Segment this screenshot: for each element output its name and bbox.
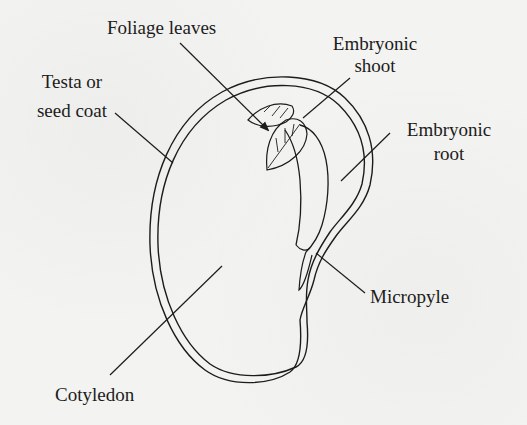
label-embryonic-root: Embryonic root: [394, 119, 504, 165]
label-embryonic-root-line2: root: [394, 143, 504, 165]
leader-micropyle: [316, 253, 365, 293]
label-testa-line1: Testa or: [27, 71, 117, 93]
label-cotyledon: Cotyledon: [55, 384, 134, 406]
leader-cotyledon: [110, 266, 222, 375]
label-testa-line2: seed coat: [27, 100, 117, 122]
seed-diagram: Foliage leaves Testa or seed coat Embryo…: [0, 0, 527, 425]
leader-foliage-leaves: [180, 43, 268, 130]
label-embryonic-shoot: Embryonic shoot: [320, 33, 430, 77]
label-testa: Testa or seed coat: [27, 71, 117, 122]
label-micropyle: Micropyle: [370, 286, 449, 308]
embryonic-axis-left: [285, 130, 301, 245]
radicle-tip: [296, 245, 312, 290]
leader-embryonic-root: [341, 133, 390, 181]
seed-coat-inner: [158, 86, 364, 376]
leader-testa: [115, 113, 173, 163]
seed-drawing: [0, 0, 527, 425]
label-foliage-leaves: Foliage leaves: [107, 17, 216, 39]
label-embryonic-root-line1: Embryonic: [394, 119, 504, 141]
leaf-veins: [264, 106, 300, 168]
label-embryonic-shoot-line2: shoot: [320, 55, 430, 77]
foliage-leaf-back: [248, 104, 294, 126]
label-embryonic-shoot-line1: Embryonic: [320, 33, 430, 55]
leader-embryonic-shoot: [303, 78, 350, 118]
